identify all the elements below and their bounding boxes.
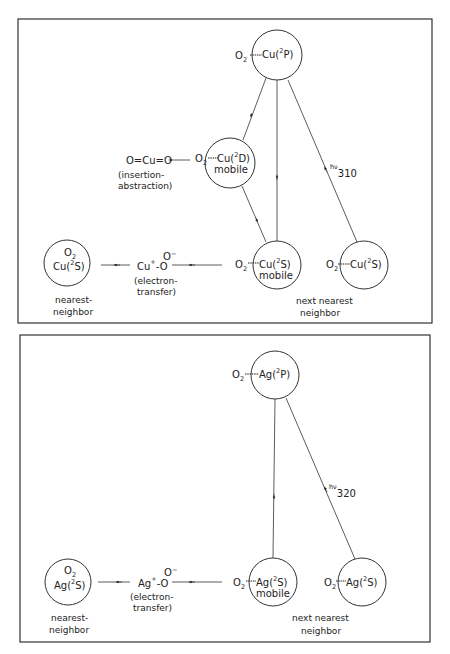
svg-text:Cu(2P): Cu(2P) bbox=[262, 47, 293, 60]
svg-text:Ag(2S): Ag(2S) bbox=[346, 575, 378, 588]
electron-transfer-label-line2: transfer) bbox=[133, 603, 172, 613]
line-2D-to-mobile-2S bbox=[242, 186, 266, 242]
svg-text:Ag(2S): Ag(2S) bbox=[54, 578, 86, 591]
next-nearest-label-line2: neighbor bbox=[300, 308, 340, 318]
photon-emission-label: hν310 bbox=[330, 163, 357, 179]
electron-transfer-label-line1: (electron- bbox=[134, 276, 178, 286]
svg-text:mobile: mobile bbox=[256, 588, 290, 599]
svg-text:Cu(2S): Cu(2S) bbox=[53, 259, 85, 272]
nearest-label-line1: nearest- bbox=[55, 295, 92, 305]
svg-text:O2: O2 bbox=[233, 577, 245, 591]
svg-text:mobile: mobile bbox=[214, 164, 248, 175]
ag-2S-nearest-label: O2 Ag(2S) bbox=[54, 565, 86, 591]
svg-text:Cu(2D): Cu(2D) bbox=[217, 151, 250, 164]
photon-emission-label: hν320 bbox=[329, 483, 356, 499]
ag-2S-next-nearest-label: O2 Ag(2S) bbox=[324, 575, 378, 591]
electron-transfer-label-line2: transfer) bbox=[137, 287, 176, 297]
svg-text:Ag(2S): Ag(2S) bbox=[256, 575, 288, 588]
svg-text:mobile: mobile bbox=[259, 270, 293, 281]
svg-text:O2: O2 bbox=[235, 50, 247, 64]
svg-text:Cu(2S): Cu(2S) bbox=[350, 257, 382, 270]
ag-2P-label: O2 Ag(2P) bbox=[232, 367, 290, 383]
insertion-label-line1: (insertion- bbox=[118, 170, 164, 180]
cu-2P-label: O2 Cu(2P) bbox=[235, 47, 293, 64]
line-2P-to-next-nearest bbox=[288, 80, 357, 242]
line-2P-to-mobile-2S bbox=[273, 399, 275, 558]
svg-text:O2: O2 bbox=[324, 577, 336, 591]
svg-text:Cu(2S): Cu(2S) bbox=[259, 257, 291, 270]
diagram-canvas: O2 Cu(2P) O2 Cu(2D) mobile O=Cu=O (inser… bbox=[0, 0, 450, 654]
next-nearest-label-line1: next nearest bbox=[296, 296, 353, 306]
cu-2S-nearest-label: O2 Cu(2S) bbox=[53, 247, 85, 272]
svg-text:O−: O− bbox=[163, 250, 176, 262]
next-nearest-label-line2: neighbor bbox=[301, 626, 341, 636]
silver-panel-frame bbox=[20, 335, 430, 642]
next-nearest-label-line1: next nearest bbox=[292, 613, 349, 623]
line-2P-to-next-nearest bbox=[286, 398, 355, 559]
line-2P-to-2D bbox=[243, 78, 266, 140]
nearest-label-line2: neighbor bbox=[53, 307, 93, 317]
copper-panel: O2 Cu(2P) O2 Cu(2D) mobile O=Cu=O (inser… bbox=[18, 19, 432, 323]
svg-text:O2: O2 bbox=[64, 565, 76, 579]
cu-superoxide-intermediate: Cu+-O O− bbox=[137, 250, 176, 272]
svg-text:O−: O− bbox=[164, 566, 177, 578]
silver-panel: O2 Ag(2P) hν320 O2 Ag(2S) mobile O2 Ag(2… bbox=[20, 335, 430, 642]
ag-superoxide-intermediate: Ag+-O O− bbox=[138, 566, 177, 589]
cu-2D-label: O2 Cu(2D) mobile bbox=[195, 151, 250, 175]
svg-text:Ag(2P): Ag(2P) bbox=[259, 367, 290, 380]
electron-transfer-label-line1: (electron- bbox=[130, 592, 174, 602]
svg-text:O2: O2 bbox=[195, 153, 207, 167]
insertion-label-line2: abstraction) bbox=[118, 181, 172, 191]
ag-2S-mobile-label: O2 Ag(2S) mobile bbox=[233, 575, 290, 599]
svg-text:O2: O2 bbox=[326, 259, 338, 273]
nearest-label-line1: nearest- bbox=[51, 613, 88, 623]
nearest-label-line2: neighbor bbox=[49, 625, 89, 635]
cu-2S-next-nearest-label: O2 Cu(2S) bbox=[326, 257, 382, 273]
cu-2S-mobile-label: O2 Cu(2S) mobile bbox=[235, 257, 293, 281]
silver-transition-lines bbox=[98, 398, 355, 582]
svg-text:O2: O2 bbox=[232, 369, 244, 383]
insertion-product: O=Cu=O bbox=[126, 155, 172, 166]
svg-text:O2: O2 bbox=[235, 259, 247, 273]
